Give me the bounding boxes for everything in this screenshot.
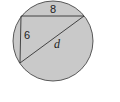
label-left-leg: 6 bbox=[24, 29, 30, 41]
label-top-leg: 8 bbox=[50, 3, 56, 15]
diagram: 8 6 d bbox=[0, 0, 120, 102]
label-hypotenuse: d bbox=[54, 37, 61, 51]
